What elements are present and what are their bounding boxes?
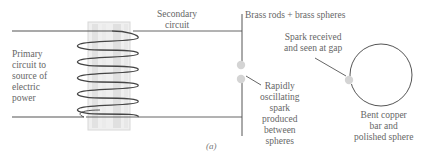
label-line: Secondary [157,9,197,20]
label-line: Bent copper [354,110,413,121]
label-line: polished sphere [354,132,413,143]
brass-sphere-lower [237,75,245,83]
receiver-sphere [345,76,353,84]
label-secondary-circuit: Secondary circuit [157,9,197,31]
brass-sphere-upper [237,61,245,69]
label-line: oscillating [260,92,300,103]
copper-ring [350,44,412,106]
label-line: bar and [354,121,413,132]
label-primary-circuit: Primary circuit to source of electric po… [12,49,47,104]
label-spark-received: Spark received and seen at gap [284,32,342,54]
figure-caption: (a) [206,141,217,152]
label-line: and seen at gap [284,43,342,54]
label-bent-copper: Bent copper bar and polished sphere [354,110,413,143]
label-line: between [260,125,300,136]
label-line: produced [260,114,300,125]
label-line: electric [12,82,47,93]
label-oscillating-spark: Rapidly oscillating spark produced betwe… [260,81,300,147]
label-line: Spark received [284,32,342,43]
label-line: spheres [260,136,300,147]
label-line: Primary [12,49,47,60]
leader-oscillating [246,76,261,85]
label-line: source of [12,71,47,82]
label-line: circuit [157,20,197,31]
label-line: Rapidly [260,81,300,92]
leader-spark-received [315,58,346,76]
label-line: power [12,93,47,104]
label-line: circuit to [12,60,47,71]
label-brass-rods: Brass rods + brass spheres [245,10,345,21]
label-line: spark [260,103,300,114]
